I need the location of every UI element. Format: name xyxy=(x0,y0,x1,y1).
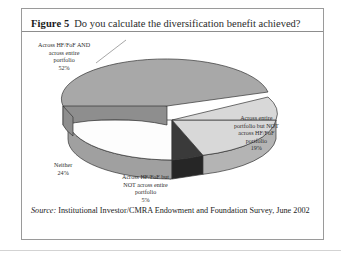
callout-neither-line1: Neither xyxy=(54,162,72,170)
callout-hf-not-entire-line3: portfolio xyxy=(122,189,169,197)
figure-title-row: Figure 5Do you calculate the diversifica… xyxy=(22,9,323,32)
source-text: Institutional Investor/CMRA Endowment an… xyxy=(58,206,309,215)
callout-hf-and-entire-line3: portfolio xyxy=(38,57,90,65)
pie-slice-hf-and-entire xyxy=(61,59,268,106)
page-divider xyxy=(0,250,341,251)
callout-hf-and-entire-line2: across entire xyxy=(38,50,90,58)
callout-entire-not-hf-line3: across HF/FoF xyxy=(234,130,279,138)
source-note: Source: Institutional Investor/CMRA Endo… xyxy=(31,205,319,217)
callout-hf-not-entire-line1: Across HF/FoF but xyxy=(122,174,169,182)
callout-neither: Neither 24% xyxy=(54,162,72,177)
callout-entire-not-hf-line1: Across entire xyxy=(234,115,279,123)
callout-entire-not-hf: Across entire portfolio but NOT across H… xyxy=(234,115,279,153)
pie-chart: Across HF/FoF AND across entire portfoli… xyxy=(22,32,325,204)
callout-hf-not-entire: Across HF/FoF but NOT across entire port… xyxy=(122,174,169,204)
callout-entire-not-hf-line2: portfolio but NOT xyxy=(234,123,279,131)
leader-line-hf-and-entire xyxy=(96,40,126,63)
callout-hf-not-entire-line2: NOT across entire xyxy=(122,182,169,190)
callout-hf-and-entire-line1: Across HF/FoF AND xyxy=(38,42,90,50)
callout-entire-not-hf-line4: portfolio xyxy=(234,138,279,146)
source-prefix: Source: xyxy=(31,206,56,215)
callout-hf-and-entire-value: 52% xyxy=(38,65,90,73)
page-title: Do you calculate the diversification ben… xyxy=(74,18,300,29)
callout-entire-not-hf-value: 19% xyxy=(234,145,279,153)
callout-neither-value: 24% xyxy=(54,170,72,178)
callout-hf-not-entire-value: 5% xyxy=(122,197,169,205)
figure-box: Figure 5Do you calculate the diversifica… xyxy=(21,8,324,240)
figure-number-label: Figure 5 xyxy=(31,18,69,29)
callout-hf-and-entire: Across HF/FoF AND across entire portfoli… xyxy=(38,42,90,72)
